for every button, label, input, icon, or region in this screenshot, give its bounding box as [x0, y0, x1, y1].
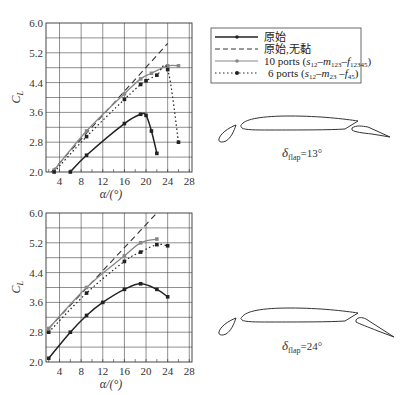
data-point — [144, 114, 148, 118]
y-axis-label: CL — [9, 90, 25, 103]
x-tick-label: 4 — [57, 175, 63, 187]
data-point — [139, 241, 143, 245]
data-point — [155, 237, 159, 241]
data-point — [166, 295, 170, 299]
main-element-shape — [241, 116, 358, 130]
x-tick-label: 4 — [57, 365, 63, 377]
x-tick-label: 8 — [78, 365, 84, 377]
data-point — [123, 98, 127, 102]
svg-text:原始: 原始 — [264, 30, 286, 43]
chart-bottom: 4812162024282.02.83.64.45.26.0α/(°)CL — [9, 207, 195, 391]
x-tick-label: 8 — [78, 175, 84, 187]
data-point — [69, 170, 73, 174]
data-point — [139, 83, 143, 87]
data-point — [123, 122, 127, 126]
data-point — [47, 327, 51, 331]
y-tick-label: 5.2 — [29, 237, 43, 249]
y-tick-label: 3.6 — [29, 106, 43, 118]
data-point — [69, 330, 73, 334]
legend: 原始 原始,无黏 10 ports (s12–m123–f12345) 6 po… — [211, 28, 371, 83]
data-point — [85, 153, 89, 157]
y-tick-label: 4.4 — [29, 267, 43, 279]
series-3 — [47, 243, 170, 334]
x-tick-label: 24 — [162, 365, 174, 377]
flap-shape — [356, 318, 394, 337]
data-point — [85, 291, 89, 295]
x-tick-label: 12 — [97, 175, 108, 187]
data-point — [85, 135, 89, 139]
data-point — [155, 152, 159, 156]
data-point — [166, 244, 170, 248]
x-tick-label: 28 — [184, 365, 196, 377]
airfoil-diagram-24deg — [219, 308, 394, 337]
data-point — [155, 243, 159, 247]
y-tick-label: 5.2 — [29, 47, 43, 59]
data-point — [177, 140, 181, 144]
data-point — [123, 288, 127, 292]
data-point — [150, 71, 154, 75]
chart-top: 4812162024282.02.83.64.45.26.0α/(°)CL — [9, 17, 195, 201]
svg-text:原始,无黏: 原始,无黏 — [264, 42, 311, 55]
slat-shape — [219, 125, 236, 142]
data-point — [139, 250, 143, 254]
series-0 — [69, 112, 159, 173]
x-tick-label: 28 — [184, 175, 196, 187]
series-2 — [52, 64, 180, 172]
x-tick-label: 20 — [141, 365, 153, 377]
data-point — [139, 112, 143, 116]
data-point — [123, 260, 127, 264]
y-tick-label: 2.8 — [29, 136, 43, 148]
series-3 — [52, 65, 180, 174]
data-point — [150, 129, 154, 133]
data-point — [123, 254, 127, 258]
data-point — [139, 282, 143, 286]
data-point — [144, 79, 148, 83]
data-point — [166, 68, 170, 72]
data-point — [85, 286, 89, 290]
data-point — [85, 129, 89, 133]
series-0 — [47, 282, 170, 360]
airfoil-diagram-13deg — [219, 116, 390, 142]
figure-canvas: 4812162024282.02.83.64.45.26.0α/(°)CL 48… — [0, 0, 409, 395]
data-point — [139, 77, 143, 81]
y-tick-label: 2.0 — [29, 356, 43, 368]
y-tick-label: 3.6 — [29, 296, 43, 308]
y-tick-label: 2.8 — [29, 326, 43, 338]
x-tick-label: 16 — [119, 365, 131, 377]
x-tick-label: 16 — [119, 175, 131, 187]
data-point — [101, 301, 105, 305]
data-point — [47, 356, 51, 360]
grid — [46, 213, 192, 362]
data-point — [85, 314, 89, 318]
y-tick-label: 6.0 — [29, 17, 43, 29]
data-point — [47, 330, 51, 334]
data-point — [123, 92, 127, 96]
flap-shape — [352, 126, 390, 137]
x-axis-label: α/(°) — [100, 377, 122, 391]
caption-flap-13: δflap=13° — [282, 145, 322, 162]
y-axis-label: CL — [9, 280, 25, 293]
x-tick-label: 12 — [97, 365, 108, 377]
data-point — [155, 288, 159, 292]
x-tick-label: 24 — [162, 175, 174, 187]
caption-flap-24: δflap=24° — [282, 338, 322, 355]
x-axis-label: α/(°) — [100, 187, 122, 201]
y-tick-label: 6.0 — [29, 207, 43, 219]
y-tick-label: 2.0 — [29, 166, 43, 178]
data-point — [177, 64, 181, 68]
y-tick-label: 4.4 — [29, 77, 43, 89]
data-point — [52, 170, 56, 174]
main-element-shape — [241, 308, 358, 322]
x-tick-label: 20 — [141, 175, 153, 187]
slat-shape — [219, 318, 236, 335]
data-point — [155, 73, 159, 77]
